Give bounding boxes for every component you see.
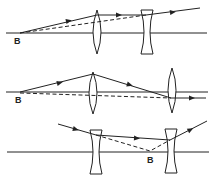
ray-arrow-icon <box>126 82 133 89</box>
panel-1: B <box>6 8 207 54</box>
panel-2: B <box>6 68 208 114</box>
ray-arrow-icon <box>189 96 195 101</box>
concave-lens <box>165 129 177 173</box>
ray-arrow-icon <box>134 136 140 141</box>
concave-lens <box>141 10 153 54</box>
point-label-B: B <box>15 95 22 105</box>
ray-arrow-icon <box>56 80 63 86</box>
panel-3: B <box>7 121 209 174</box>
dashed-ray <box>20 15 146 33</box>
point-label-B: B <box>14 36 21 46</box>
ray-arrow-icon <box>116 13 122 18</box>
solid-ray <box>58 121 207 140</box>
point-label-B: B <box>147 155 154 165</box>
ray-arrow-icon <box>187 126 195 133</box>
ray-diagram: B B B <box>0 0 215 181</box>
ray-arrow-icon <box>72 126 79 132</box>
convex-lens <box>168 68 176 113</box>
ray-arrow-icon <box>170 9 177 15</box>
convex-lens <box>89 72 97 114</box>
convex-lens <box>93 10 101 54</box>
